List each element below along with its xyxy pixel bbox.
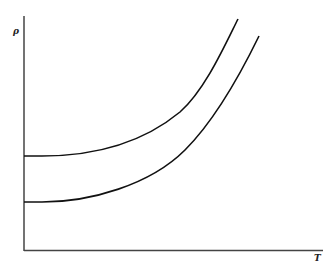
lower-curve	[24, 36, 259, 202]
y-axis-label: ρ	[13, 26, 19, 36]
chart-canvas	[0, 0, 336, 269]
x-axis-label: T	[314, 253, 321, 263]
upper-curve	[24, 19, 238, 156]
